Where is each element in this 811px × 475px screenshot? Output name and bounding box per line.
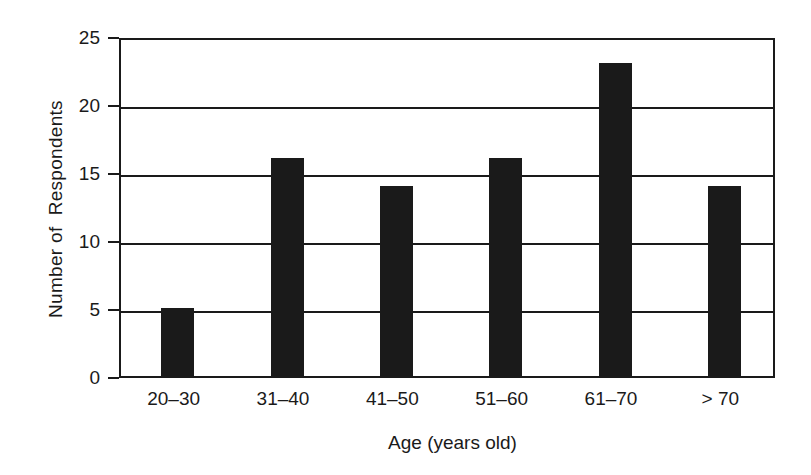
x-tick-label: 51–60 <box>442 388 562 410</box>
y-tick-label: 25 <box>34 28 100 47</box>
x-axis-title: Age (years old) <box>0 432 811 454</box>
bar <box>271 158 304 376</box>
bar <box>161 308 194 376</box>
bar <box>599 63 632 376</box>
gridline <box>121 107 773 109</box>
gridline <box>121 311 773 313</box>
x-tick-label: 31–40 <box>223 388 343 410</box>
y-tick-mark <box>108 241 119 243</box>
y-tick-mark <box>108 309 119 311</box>
y-tick-mark <box>108 37 119 39</box>
y-tick-label: 0 <box>34 368 100 387</box>
plot-area <box>119 38 775 378</box>
y-tick-label: 15 <box>34 164 100 183</box>
x-tick-label: 41–50 <box>332 388 452 410</box>
gridline <box>121 243 773 245</box>
x-tick-label: 20–30 <box>114 388 234 410</box>
gridline <box>121 175 773 177</box>
y-tick-mark <box>108 105 119 107</box>
bar <box>380 186 413 376</box>
y-tick-label: 5 <box>34 300 100 319</box>
bar <box>708 186 741 376</box>
bar <box>489 158 522 376</box>
x-tick-label: > 70 <box>660 388 780 410</box>
y-tick-mark <box>108 377 119 379</box>
bar-chart-figure: Number of Respondents 0510152025 Age (ye… <box>0 0 811 475</box>
y-tick-mark <box>108 173 119 175</box>
y-axis-ticks: 0510152025 <box>0 0 119 475</box>
y-tick-label: 10 <box>34 232 100 251</box>
y-tick-label: 20 <box>34 96 100 115</box>
x-tick-label: 61–70 <box>551 388 671 410</box>
